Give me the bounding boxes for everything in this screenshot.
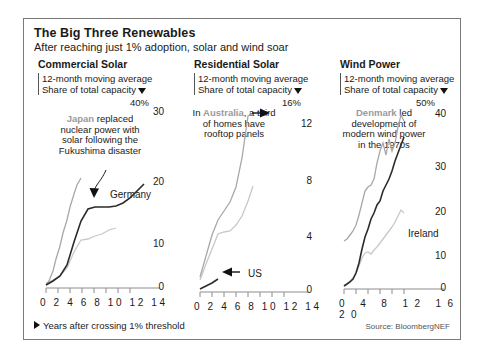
x-tick-20: 20 [339, 309, 363, 320]
panel-annotation: In Australia, a third of homes have roof… [188, 108, 280, 140]
series-label-us: US [248, 268, 262, 279]
x-tick-0: 0 [339, 298, 351, 309]
x-tick-6: 6 [81, 297, 89, 308]
legend-line-2-text: Share of total capacity [344, 84, 438, 95]
x-axis-ticks [200, 292, 284, 297]
triangle-right-icon [34, 321, 40, 329]
y-tick-10: 10 [138, 238, 164, 249]
annotation-highlight: Japan [67, 113, 94, 124]
annotation-arrow-line [94, 170, 106, 191]
x-tick-4: 4 [360, 298, 372, 309]
series-line-japan [46, 178, 81, 285]
y-tick-0: 0 [286, 284, 312, 295]
triangle-down-icon [440, 88, 448, 94]
page-title: The Big Three Renewables [34, 26, 195, 40]
panel-title: Wind Power [340, 58, 400, 70]
source-credit: Source: BloombergNEF [366, 322, 450, 331]
x-tick-16: 16 [436, 298, 460, 309]
us-arrow-head [222, 268, 232, 277]
x-tick-12: 12 [130, 297, 146, 308]
y-tick-30: 30 [138, 106, 164, 117]
x-tick-14: 14 [151, 297, 167, 308]
legend-line-2-text: Share of total capacity [42, 84, 136, 95]
x-tick-6: 6 [235, 301, 243, 312]
legend-line-1: 12-month moving average [42, 73, 152, 84]
x-tick-2: 2 [54, 297, 62, 308]
series-label-ireland: Ireland [408, 228, 439, 239]
panel-max-value: 50% [416, 97, 435, 108]
x-axis-ticks [344, 289, 404, 294]
x-tick-0: 0 [194, 301, 202, 312]
x-tick-10: 10 [262, 301, 278, 312]
triangle-down-icon [294, 88, 302, 94]
triangle-down-icon [138, 88, 146, 94]
x-tick-4: 4 [221, 301, 229, 312]
annotation-highlight: Denmark [356, 107, 397, 118]
legend-line-2: Share of total capacity [344, 84, 454, 95]
legend-line-2: Share of total capacity [42, 84, 152, 95]
panel-legend: 12-month moving average Share of total c… [340, 73, 454, 95]
series-line-unlabeled [344, 210, 404, 286]
legend-line-2: Share of total capacity [198, 84, 308, 95]
y-tick-4: 4 [286, 231, 312, 242]
x-tick-2: 2 [208, 301, 216, 312]
series-line-unlabeled [46, 228, 116, 283]
panel-annotation: Japan replaced nuclear power with solar … [52, 114, 148, 156]
page-subtitle: After reaching just 1% adoption, solar a… [34, 41, 288, 53]
footnote: Years after crossing 1% threshold [34, 320, 185, 331]
x-tick-14: 14 [305, 301, 321, 312]
x-tick-10: 10 [108, 297, 124, 308]
annotation-highlight: Australia [203, 107, 244, 118]
y-tick-8: 8 [286, 175, 312, 186]
x-axis-ticks [46, 288, 130, 293]
x-tick-8: 8 [248, 301, 256, 312]
panel-legend: 12-month moving average Share of total c… [194, 73, 308, 95]
series-line-unlabeled [200, 186, 253, 280]
x-tick-4: 4 [67, 297, 75, 308]
y-tick-12: 12 [286, 118, 312, 129]
panel-wind-power: Wind Power 12-month moving average Share… [336, 58, 462, 326]
series-line-ireland [344, 137, 404, 286]
x-tick-12: 12 [402, 298, 426, 309]
panel-title: Residential Solar [194, 58, 279, 70]
y-tick-30: 30 [420, 161, 446, 172]
x-tick-12: 12 [284, 301, 300, 312]
panel-max-value: 16% [282, 97, 301, 108]
x-tick-labels: 0 2 4 6 8 10 12 14 [194, 301, 322, 312]
series-label-germany: Germany [110, 189, 151, 200]
y-tick-20: 20 [420, 206, 446, 217]
y-tick-40: 40 [420, 108, 446, 119]
y-tick-10: 10 [420, 250, 446, 261]
y-tick-0: 0 [138, 281, 164, 292]
series-line-us [200, 279, 218, 289]
x-tick-8: 8 [94, 297, 102, 308]
legend-line-2-text: Share of total capacity [198, 84, 292, 95]
annotation-arrow-head [90, 188, 100, 198]
x-tick-labels: 0 2 4 6 8 10 12 14 [40, 297, 168, 308]
panel-legend: 12-month moving average Share of total c… [38, 73, 152, 95]
y-tick-0: 0 [420, 282, 446, 293]
chart-root: The Big Three Renewables After reaching … [0, 0, 484, 357]
legend-line-1: 12-month moving average [198, 73, 308, 84]
annotation-prefix: In [193, 107, 204, 118]
footnote-text: Years after crossing 1% threshold [43, 320, 185, 331]
x-tick-labels: 0 4 8 12 16 20 [339, 298, 462, 320]
y-tick-20: 20 [138, 176, 164, 187]
x-tick-0: 0 [40, 297, 48, 308]
panel-residential-solar: Residential Solar 12-month moving averag… [190, 58, 330, 326]
x-tick-8: 8 [381, 298, 393, 309]
panel-title: Commercial Solar [38, 58, 127, 70]
panel-annotation: Denmark led development of modern wind p… [338, 108, 430, 150]
panel-commercial-solar: Commercial Solar 12-month moving average… [34, 58, 186, 326]
legend-line-1: 12-month moving average [344, 73, 454, 84]
